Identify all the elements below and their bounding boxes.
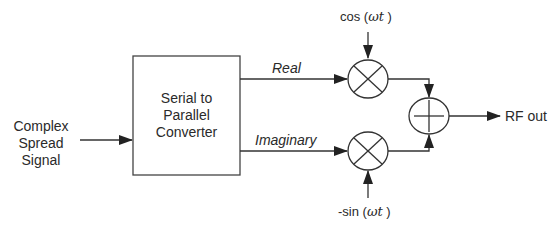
cos-suffix: ) — [384, 9, 392, 24]
sin-suffix: ) — [383, 204, 391, 219]
converter-label-line2: Parallel — [133, 107, 240, 124]
input-label-line3: Signal — [6, 152, 76, 169]
imaginary-to-adder-line — [388, 135, 429, 151]
converter-label: Serial to Parallel Converter — [133, 90, 240, 141]
input-label: Complex Spread Signal — [6, 118, 76, 169]
imaginary-branch-label: Imaginary — [255, 132, 316, 149]
input-label-line1: Complex — [6, 118, 76, 135]
cos-var: ωt — [368, 9, 384, 24]
mixer-imaginary-icon — [348, 132, 388, 170]
sin-var: ωt — [367, 204, 383, 219]
cos-carrier-label: cos (ωt ) — [340, 8, 392, 25]
cos-prefix: cos ( — [340, 9, 368, 24]
real-to-adder-line — [388, 79, 429, 97]
input-label-line2: Spread — [6, 135, 76, 152]
adder-icon — [409, 98, 449, 134]
real-branch-label: Real — [272, 60, 301, 77]
converter-label-line1: Serial to — [133, 90, 240, 107]
sin-carrier-label: -sin (ωt ) — [338, 203, 391, 220]
sin-prefix: -sin ( — [338, 204, 367, 219]
diagram-canvas — [0, 0, 559, 228]
converter-label-line3: Converter — [133, 124, 240, 141]
output-label: RF out — [505, 108, 547, 125]
mixer-real-icon — [348, 60, 388, 98]
